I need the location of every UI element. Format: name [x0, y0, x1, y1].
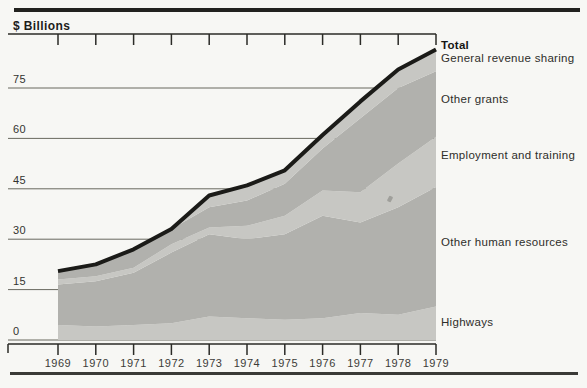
bottom-border-rule: [10, 372, 578, 375]
scanned-chart-page: { "page": { "axis_title": "$ Billions" }…: [0, 0, 587, 388]
y-tick-label: 60: [13, 123, 43, 135]
y-tick-label: 45: [13, 174, 43, 186]
legend-label-highways: Highways: [441, 316, 493, 328]
x-tick-label: 1975: [266, 357, 304, 369]
legend-label-general-revenue-sharing: General revenue sharing: [441, 52, 574, 64]
legend-label-other-human-resources: Other human resources: [441, 236, 568, 248]
y-tick-label: 15: [13, 275, 43, 287]
legend-label-total: Total: [441, 39, 469, 51]
x-tick-label: 1979: [417, 357, 455, 369]
x-tick-label: 1978: [379, 357, 417, 369]
x-tick-label: 1973: [190, 357, 228, 369]
legend-label-employment-and-training: Employment and training: [441, 149, 575, 161]
x-tick-label: 1971: [115, 357, 153, 369]
x-tick-label: 1977: [341, 357, 379, 369]
x-tick-label: 1974: [228, 357, 266, 369]
y-tick-label: 75: [13, 73, 43, 85]
x-tick-label: 1969: [39, 357, 77, 369]
y-tick-label: 0: [13, 325, 43, 337]
legend-label-other-grants: Other grants: [441, 93, 509, 105]
y-tick-label: 30: [13, 224, 43, 236]
x-tick-label: 1972: [152, 357, 190, 369]
x-tick-label: 1976: [304, 357, 342, 369]
x-tick-label: 1970: [77, 357, 115, 369]
